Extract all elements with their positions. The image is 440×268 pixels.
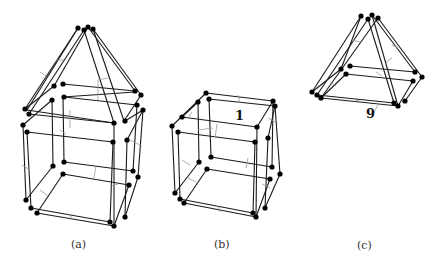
- figure-b: 1: [169, 90, 282, 219]
- figure-c-edges: [312, 15, 422, 106]
- figure-b-ticks: [182, 95, 278, 212]
- figure-a-nodes: [20, 24, 145, 228]
- caption-a: (a): [71, 238, 86, 251]
- figure-b-edge-label: 1: [235, 108, 244, 123]
- figure-b-edges: [172, 93, 280, 217]
- figure-c-nodes: [309, 12, 424, 108]
- figure-c: 9: [309, 12, 424, 121]
- caption-c: (c): [357, 239, 372, 252]
- figure-a-ticks: [22, 60, 142, 220]
- figure-c-edge-label: 9: [366, 106, 375, 121]
- caption-b: (b): [214, 238, 230, 251]
- diagram-canvas: 1: [0, 0, 440, 268]
- figure-a-cube-edges: [23, 92, 143, 226]
- figure-a: [20, 24, 145, 228]
